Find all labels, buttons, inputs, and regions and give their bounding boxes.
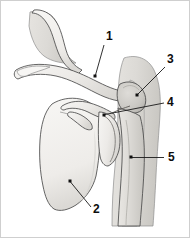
humerus-shaft — [118, 108, 144, 226]
anatomy-figure: 1 2 3 4 5 — [0, 0, 190, 238]
label-number-1: 1 — [106, 29, 113, 43]
label-number-5: 5 — [168, 150, 175, 164]
leader-dot-2 — [69, 180, 72, 183]
leader-dot-5 — [130, 156, 133, 159]
leader-dot-1 — [94, 75, 97, 78]
shoulder-anatomy-illustration: 1 2 3 4 5 — [0, 0, 190, 238]
humerus-shaft-shape — [118, 108, 144, 226]
leader-line-1 — [96, 45, 105, 75]
label-number-2: 2 — [93, 202, 100, 216]
label-number-4: 4 — [167, 95, 174, 109]
leader-dot-3 — [136, 94, 139, 97]
label-number-3: 3 — [167, 52, 174, 66]
leader-dot-4 — [103, 114, 106, 117]
